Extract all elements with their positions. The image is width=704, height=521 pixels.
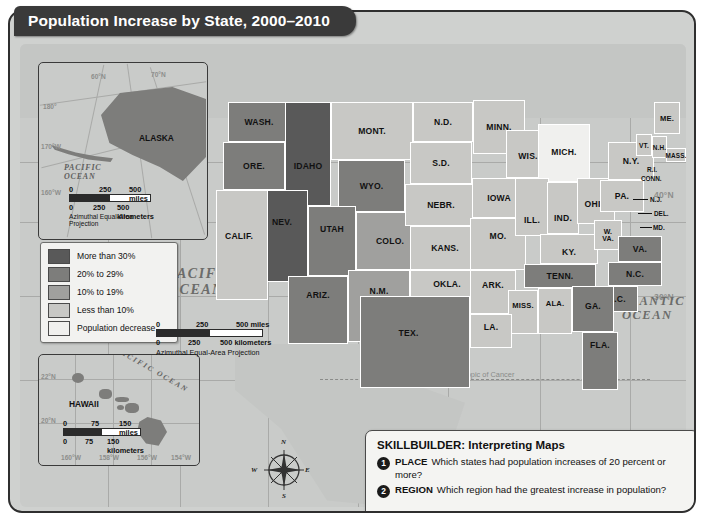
legend-item[interactable]: Population decrease: [48, 321, 171, 336]
hawaii-grid-label: 154°W: [171, 454, 191, 461]
state-label: WIS.: [518, 151, 537, 161]
hawaii-island-oahu: [99, 389, 112, 399]
state-mass[interactable]: MASS.: [666, 148, 686, 162]
state-label: VA.: [633, 244, 647, 254]
state-label: NEV.: [272, 217, 292, 227]
state-nd[interactable]: N.D.: [413, 102, 473, 142]
state-ala[interactable]: ALA.: [538, 288, 572, 334]
scale-num: 250: [196, 320, 208, 329]
legend-swatch: [48, 249, 70, 264]
alaska-scale-bar: 0 250 500 miles 0 250 500 kilometers: [69, 185, 159, 227]
state-label: W. VA.: [602, 228, 615, 242]
state-wyo[interactable]: WYO.: [338, 160, 405, 212]
compass-west-label: W: [251, 466, 257, 474]
state-wash[interactable]: WASH.: [228, 102, 290, 142]
skillbuilder-title: SKILLBUILDER: Interpreting Maps: [377, 439, 687, 451]
state-label: VT.: [639, 142, 649, 149]
legend-item[interactable]: 10% to 19%: [48, 285, 171, 300]
alaska-pacific-label-2: OCEAN: [64, 172, 101, 181]
state-ind[interactable]: IND.: [547, 182, 579, 234]
hawaii-island-molokai: [115, 397, 129, 402]
state-label: N.M.: [370, 286, 389, 296]
hawaii-scale-bar: 0 75 150 miles 0 75 150 kilometers: [63, 419, 149, 446]
scale-num: 250: [93, 203, 105, 212]
state-label: IDAHO: [294, 161, 323, 171]
projection-label: Azimuthal Equal-Area Projection: [156, 348, 274, 357]
hawaii-pacific-ocean-label: PACIFIC OCEAN: [114, 354, 190, 394]
alaska-scale-km: 0 250 500 kilometers: [69, 203, 159, 212]
state-nebr[interactable]: NEBR.: [405, 184, 477, 226]
state-label: FLA.: [590, 340, 610, 350]
legend-swatch: [48, 303, 70, 318]
scale-bar-graphic: [156, 329, 263, 337]
state-utah[interactable]: UTAH: [308, 206, 356, 276]
state-mich[interactable]: MICH.: [538, 124, 590, 182]
state-label: MONT.: [358, 126, 386, 136]
state-pa[interactable]: PA.: [600, 180, 644, 212]
state-calif[interactable]: CALIF.: [216, 190, 268, 300]
state-miss[interactable]: MISS.: [508, 290, 538, 334]
state-label: LA.: [484, 322, 498, 332]
scale-num: 500 kilometers: [220, 338, 271, 347]
state-label: N.C.: [626, 269, 644, 279]
state-label: MO.: [490, 231, 507, 241]
legend-item[interactable]: Less than 10%: [48, 303, 171, 318]
state-fla[interactable]: FLA.: [582, 332, 618, 390]
state-ariz[interactable]: ARIZ.: [288, 276, 348, 344]
state-nc[interactable]: N.C.: [608, 262, 662, 286]
hawaii-grid-label: 22°N: [41, 373, 56, 380]
map-page: 120°W 110°W 100°W 90°W 80°W 70°W 40°N 30…: [0, 0, 704, 521]
state-ky[interactable]: KY.: [540, 234, 598, 264]
scale-num: 75: [91, 419, 99, 428]
alaska-grid-label: 160°W: [41, 189, 61, 196]
state-label: KY.: [562, 247, 576, 257]
state-label: ARK.: [482, 280, 504, 290]
page-title: Population Increase by State, 2000–2010: [28, 12, 330, 30]
legend-label: Less than 10%: [77, 306, 134, 316]
state-label: ALA.: [546, 299, 565, 308]
state-label: TEX.: [399, 328, 419, 338]
state-label: UTAH: [320, 224, 344, 234]
skillbuilder-question: 1 PLACEWhich states had population incre…: [377, 456, 687, 481]
state-mont[interactable]: MONT.: [331, 102, 413, 160]
scale-num: 150 miles: [119, 419, 149, 437]
scale-num: 500 kilometers: [117, 203, 159, 221]
callout-leader-line: [640, 227, 652, 228]
state-va[interactable]: VA.: [618, 236, 662, 262]
state-label: MASS.: [665, 152, 686, 159]
hawaii-grid-label: 158°W: [99, 454, 119, 461]
state-la[interactable]: LA.: [470, 314, 512, 348]
state-tex[interactable]: TEX.: [360, 296, 470, 388]
legend-item[interactable]: 20% to 29%: [48, 267, 171, 282]
hawaii-label: HAWAII: [69, 399, 99, 409]
hawaii-inset: HAWAII PACIFIC OCEAN 22°N 20°N 160°W 158…: [38, 354, 200, 466]
state-label: IOWA: [487, 193, 511, 203]
scale-num: 250: [99, 185, 111, 194]
state-me[interactable]: ME.: [654, 102, 680, 134]
state-vt[interactable]: VT.: [636, 134, 652, 156]
callout-ri: R.I.: [647, 166, 657, 173]
callout-del: DEL.: [654, 210, 669, 217]
question-number-badge: 1: [377, 457, 390, 470]
legend-item[interactable]: More than 30%: [48, 249, 171, 264]
state-ill[interactable]: ILL.: [515, 178, 549, 236]
scale-num: 0: [156, 338, 160, 347]
scale-num: 150 kilometers: [107, 437, 149, 455]
question-tag: PLACE: [395, 456, 428, 467]
hawaii-grid-label: 20°N: [41, 417, 56, 424]
state-ga[interactable]: GA.: [572, 286, 614, 332]
hawaii-island-lanai: [117, 405, 124, 410]
state-ore[interactable]: ORE.: [223, 142, 285, 190]
state-label: TENN.: [547, 271, 574, 281]
legend-label: 20% to 29%: [77, 270, 123, 280]
compass-north-label: N: [281, 438, 286, 446]
hawaii-island-kauai: [72, 373, 84, 383]
state-tenn[interactable]: TENN.: [524, 264, 596, 288]
compass-south-label: S: [282, 492, 286, 500]
alaska-grid-label: 180°: [43, 103, 57, 110]
compass-rose: N E S W: [258, 444, 310, 496]
scale-num: 0: [156, 320, 160, 329]
state-label: MISS.: [512, 301, 534, 310]
state-sd[interactable]: S.D.: [410, 142, 472, 184]
question-text: Which region had the greatest increase i…: [437, 484, 666, 495]
